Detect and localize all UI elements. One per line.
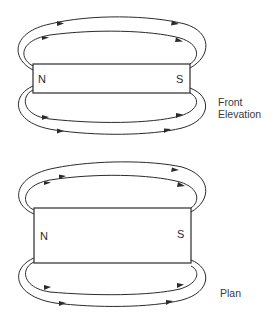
caption-plan: Plan: [220, 287, 241, 299]
bar-magnet: [34, 208, 191, 263]
arrow-icon: [44, 181, 51, 185]
field-line-top-inner: [24, 31, 197, 66]
south-pole-label: S: [177, 228, 184, 240]
arrow-icon: [42, 36, 49, 40]
magnet-field-diagram: N S Front Elevation N S Plan: [0, 0, 276, 325]
field-line-top-outer: [18, 17, 206, 70]
arrow-icon: [57, 129, 64, 134]
arrow-icon: [59, 301, 66, 306]
north-pole-label: N: [38, 73, 46, 85]
arrow-icon: [171, 168, 179, 173]
field-line-bottom-inner: [26, 262, 197, 295]
field-line-bottom-outer: [19, 258, 206, 306]
plan-view: N S Plan: [19, 162, 242, 307]
caption-front: Front: [218, 96, 243, 108]
field-line-top-inner: [26, 175, 197, 210]
south-pole-label: S: [176, 73, 183, 85]
field-line-bottom-inner: [25, 90, 196, 122]
arrow-icon: [44, 285, 51, 290]
front-elevation-view: N S Front Elevation: [18, 17, 261, 134]
caption-elevation: Elevation: [218, 108, 261, 120]
north-pole-label: N: [40, 230, 48, 242]
bar-magnet: [33, 64, 190, 93]
arrow-icon: [177, 283, 184, 288]
